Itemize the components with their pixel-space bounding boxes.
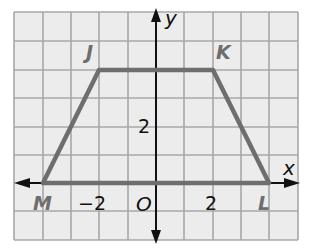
y-axis-label: y: [165, 8, 177, 28]
tick-label-x-pos2: 2: [205, 194, 217, 213]
tick-label-x-neg2: −2: [78, 194, 106, 213]
origin-label: O: [136, 194, 152, 214]
tick-label-y-pos2: 2: [138, 117, 150, 136]
vertex-label-j: J: [86, 43, 93, 62]
x-axis-label: x: [283, 158, 295, 178]
coordinate-plane: [0, 0, 312, 252]
vertex-label-l: L: [258, 194, 270, 213]
vertex-label-m: M: [33, 194, 52, 213]
vertex-label-k: K: [216, 43, 231, 62]
